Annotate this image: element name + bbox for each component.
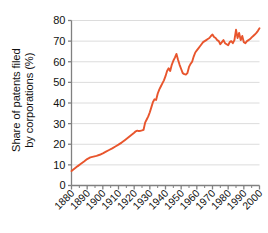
y-axis-label-line-2: by corporations (%) xyxy=(23,48,36,152)
y-tick-label: 50 xyxy=(53,76,65,88)
series-line-patents-share xyxy=(72,28,260,171)
y-axis-tick-labels: 01020304050607080 xyxy=(53,14,65,191)
y-axis-label: Share of patents filed by corporations (… xyxy=(0,0,46,200)
y-tick-label: 80 xyxy=(53,14,65,26)
y-tick-label: 30 xyxy=(53,118,65,130)
y-tick-label: 60 xyxy=(53,56,65,68)
y-tick-label: 0 xyxy=(59,179,65,191)
y-tick-label: 20 xyxy=(53,138,65,150)
x-axis-tick-labels: 1880189019001910192019301940195019601970… xyxy=(52,187,264,211)
patents-share-line-chart: Share of patents filed by corporations (… xyxy=(0,0,268,233)
y-tick-label: 40 xyxy=(53,97,65,109)
y-axis-label-line-1: Share of patents filed xyxy=(10,48,23,152)
y-tick-label: 10 xyxy=(53,159,65,171)
data-series-line xyxy=(72,28,260,171)
y-tick-label: 70 xyxy=(53,35,65,47)
